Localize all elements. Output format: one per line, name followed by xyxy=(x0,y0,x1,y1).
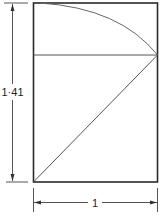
diagonal-line xyxy=(34,55,158,182)
root2-rectangle-diagram: 1·41 1 xyxy=(0,0,161,224)
arrow-down-icon xyxy=(11,174,15,181)
arrow-up-icon xyxy=(11,4,15,11)
outer-rectangle xyxy=(34,3,158,182)
width-label: 1 xyxy=(92,197,98,209)
height-label: 1·41 xyxy=(1,86,23,98)
height-dimension: 1·41 xyxy=(1,3,28,182)
arrow-right-icon xyxy=(150,201,157,205)
arrow-left-icon xyxy=(34,201,41,205)
width-dimension: 1 xyxy=(34,188,158,212)
quarter-arc xyxy=(40,3,158,55)
